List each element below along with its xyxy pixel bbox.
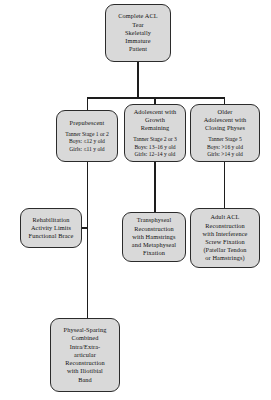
connector-prepubescent-stem [87, 162, 89, 319]
connector-rehabilitation-arm [81, 227, 88, 229]
node-older-adolescent-closing-physes[interactable]: OlderAdolescent withClosing Physes Tanne… [190, 104, 260, 162]
node-title: Adult ACLReconstructionwith Interference… [203, 213, 248, 262]
node-title: Adolescent withGrowthRemaining [134, 108, 177, 133]
node-title: Complete ACLTearSkeletallyImmaturePatien… [118, 12, 158, 53]
node-transphyseal-reconstruction[interactable]: TransphysealReconstructionwith Hamstring… [122, 212, 186, 262]
node-title: OlderAdolescent withClosing Physes [204, 108, 247, 133]
node-adult-acl-reconstruction[interactable]: Adult ACLReconstructionwith Interference… [190, 208, 260, 268]
connector-root-stem [137, 62, 139, 98]
node-criteria: Tanner Stage 2 or 3Boys: 13–16 y oldGirl… [133, 136, 177, 158]
node-title: Prepubescent [70, 119, 105, 127]
node-title: Physeal-SparingCombinedIntra/Extra-artic… [64, 326, 107, 383]
node-title: RehabilitationActivity LimitsFunctional … [29, 216, 74, 241]
node-criteria: Tanner Stage 1 or 2Boys: ≤12 y oldGirls:… [65, 131, 109, 153]
flowchart-canvas: Complete ACLTearSkeletallyImmaturePatien… [0, 0, 271, 400]
node-physeal-sparing-reconstruction[interactable]: Physeal-SparingCombinedIntra/Extra-artic… [50, 318, 120, 392]
connector-adolescent-stem [154, 162, 156, 213]
connector-drop-prepubescent [87, 97, 89, 111]
node-criteria: Tanner Stage 5Boys: >16 y oldGirls: >14 … [207, 136, 243, 158]
node-title: TransphysealReconstructionwith Hamstring… [132, 216, 176, 257]
node-prepubescent[interactable]: Prepubescent Tanner Stage 1 or 2Boys: ≤1… [56, 110, 118, 162]
node-rehabilitation[interactable]: RehabilitationActivity LimitsFunctional … [20, 208, 82, 248]
connector-older-stem [224, 162, 226, 209]
node-complete-acl-tear[interactable]: Complete ACLTearSkeletallyImmaturePatien… [105, 4, 171, 62]
node-adolescent-with-growth-remaining[interactable]: Adolescent withGrowthRemaining Tanner St… [124, 104, 186, 162]
